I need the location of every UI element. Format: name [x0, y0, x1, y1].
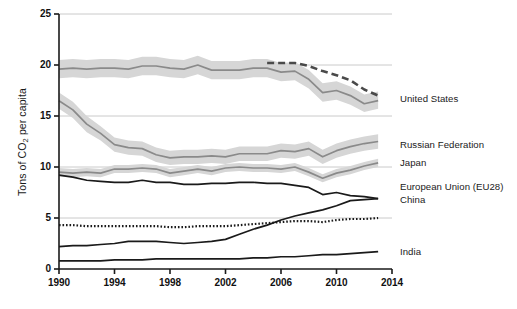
series-line	[59, 199, 378, 247]
x-tick-label: 1994	[100, 277, 130, 288]
x-tick-label: 2006	[266, 277, 296, 288]
y-tick-label: 25	[21, 8, 51, 19]
y-tick-label: 5	[21, 212, 51, 223]
series-label: United States	[400, 93, 458, 104]
x-tick-label: 2010	[322, 277, 352, 288]
y-tick-label: 15	[21, 110, 51, 121]
y-tick-label: 20	[21, 59, 51, 70]
gridlines	[59, 14, 392, 218]
x-tick-label: 1998	[155, 277, 185, 288]
series-line	[59, 252, 378, 261]
series-label: China	[400, 194, 425, 205]
x-tick-label: 1990	[44, 277, 74, 288]
uncertainty-bands	[59, 56, 378, 182]
x-tick-label: 2002	[211, 277, 241, 288]
series-line	[59, 218, 378, 227]
chart-root: Tons of CO2 per capita 19901994199820022…	[0, 0, 517, 309]
y-tick-label: 0	[21, 263, 51, 274]
y-tick-label: 10	[21, 161, 51, 172]
series-label: Russian Federation	[400, 139, 484, 150]
chart-canvas	[0, 0, 517, 309]
series-label: European Union (EU28)	[400, 181, 503, 192]
series-label: India	[400, 246, 421, 257]
series-label: Japan	[400, 157, 426, 168]
x-tick-label: 2014	[377, 277, 407, 288]
